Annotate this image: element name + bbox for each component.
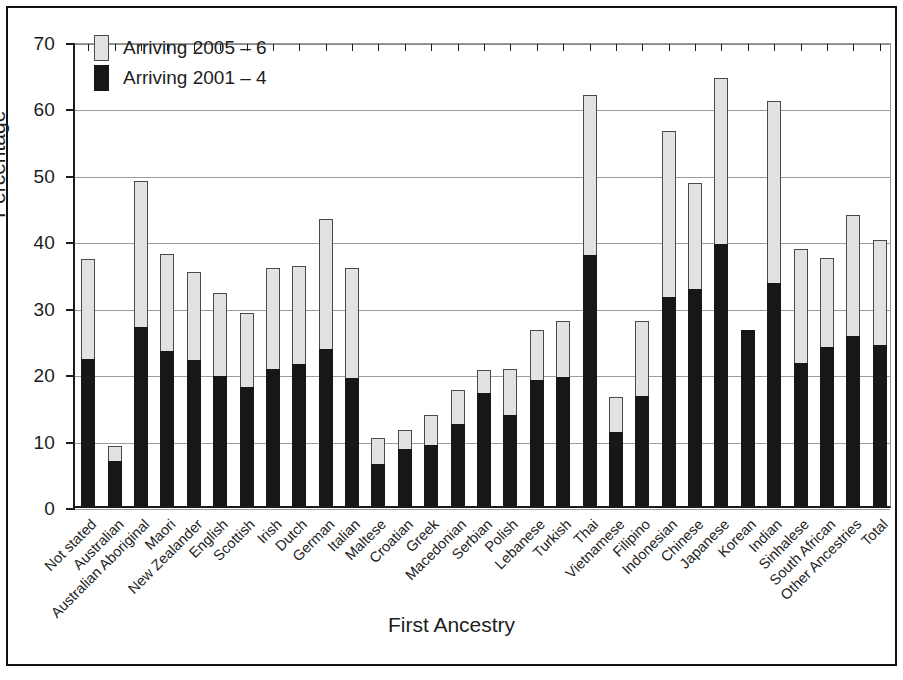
bar-segment-arriving-2001-4	[134, 327, 148, 506]
bar-segment-arriving-2001-4	[873, 345, 887, 506]
bar-group	[424, 41, 438, 506]
bar-segment-arriving-2005-6	[820, 258, 834, 348]
x-tick-mark	[378, 44, 379, 51]
bar-group	[292, 41, 306, 506]
bar-group	[609, 41, 623, 506]
bar-segment-arriving-2001-4	[451, 424, 465, 506]
bar-group	[741, 41, 755, 506]
bar-segment-arriving-2001-4	[530, 380, 544, 506]
bar-group	[794, 41, 808, 506]
bar-series-container	[75, 44, 890, 506]
legend-swatch-light-icon	[94, 35, 109, 61]
bar-segment-arriving-2005-6	[530, 330, 544, 380]
bar-segment-arriving-2005-6	[662, 131, 676, 296]
bar-segment-arriving-2005-6	[213, 293, 227, 376]
y-tick-label: 20	[7, 365, 55, 387]
bar-group	[345, 41, 359, 506]
bar-segment-arriving-2005-6	[688, 183, 702, 289]
bar-group	[319, 41, 333, 506]
bar-group	[160, 41, 174, 506]
legend-entry: Arriving 2001 – 4	[94, 63, 344, 93]
bar-segment-arriving-2001-4	[266, 369, 280, 507]
x-tick-mark	[827, 44, 828, 51]
x-tick-mark	[880, 44, 881, 51]
bar-segment-arriving-2005-6	[846, 215, 860, 336]
x-tick-mark	[405, 44, 406, 51]
bar-segment-arriving-2001-4	[714, 244, 728, 506]
bar-group	[583, 41, 597, 506]
y-axis-title: Percentage	[0, 111, 10, 218]
bar-segment-arriving-2001-4	[820, 347, 834, 506]
bar-segment-arriving-2005-6	[398, 430, 412, 449]
bar-group	[635, 41, 649, 506]
x-tick-mark	[774, 44, 775, 51]
legend-swatch-dark-icon	[94, 65, 109, 91]
bar-segment-arriving-2001-4	[424, 445, 438, 506]
bar-segment-arriving-2005-6	[345, 268, 359, 378]
y-tick-mark	[66, 43, 75, 45]
y-tick-mark	[66, 176, 75, 178]
bar-segment-arriving-2005-6	[160, 254, 174, 352]
bar-group	[81, 41, 95, 506]
x-tick-mark	[748, 44, 749, 51]
bar-group	[108, 41, 122, 506]
bar-segment-arriving-2005-6	[292, 266, 306, 364]
x-tick-mark	[431, 44, 432, 51]
y-tick-label: 40	[7, 232, 55, 254]
x-tick-mark	[88, 44, 89, 51]
y-tick-mark	[66, 109, 75, 111]
bar-segment-arriving-2001-4	[292, 364, 306, 506]
x-tick-mark	[458, 44, 459, 51]
bar-segment-arriving-2005-6	[477, 370, 491, 393]
bar-group	[477, 41, 491, 506]
bar-segment-arriving-2005-6	[583, 95, 597, 255]
x-tick-mark	[352, 44, 353, 51]
bar-segment-arriving-2001-4	[371, 464, 385, 506]
y-tick-label: 0	[7, 498, 55, 520]
bar-group	[767, 41, 781, 506]
bar-segment-arriving-2005-6	[556, 321, 570, 377]
bar-group	[213, 41, 227, 506]
bar-segment-arriving-2005-6	[503, 369, 517, 415]
bar-segment-arriving-2005-6	[794, 249, 808, 363]
bar-segment-arriving-2001-4	[662, 297, 676, 506]
bar-segment-arriving-2001-4	[345, 378, 359, 506]
x-tick-mark	[590, 44, 591, 51]
bar-group	[662, 41, 676, 506]
y-tick-mark	[66, 309, 75, 311]
x-tick-mark	[801, 44, 802, 51]
bar-segment-arriving-2005-6	[451, 390, 465, 424]
x-tick-mark	[669, 44, 670, 51]
x-tick-mark	[484, 44, 485, 51]
x-tick-label: Total	[858, 516, 891, 549]
bar-segment-arriving-2005-6	[609, 397, 623, 432]
bar-segment-arriving-2005-6	[134, 181, 148, 328]
bar-group	[873, 41, 887, 506]
bar-segment-arriving-2001-4	[556, 377, 570, 506]
bar-group	[134, 41, 148, 506]
bar-segment-arriving-2005-6	[767, 101, 781, 284]
bar-segment-arriving-2005-6	[635, 321, 649, 397]
bar-group	[714, 41, 728, 506]
bar-segment-arriving-2005-6	[240, 313, 254, 387]
bar-group	[530, 41, 544, 506]
bar-segment-arriving-2001-4	[213, 376, 227, 506]
bar-group	[556, 41, 570, 506]
legend-label: Arriving 2005 – 6	[123, 37, 267, 59]
bar-segment-arriving-2001-4	[477, 393, 491, 506]
bar-segment-arriving-2001-4	[81, 359, 95, 506]
bar-group	[398, 41, 412, 506]
x-tick-mark	[695, 44, 696, 51]
bar-segment-arriving-2005-6	[187, 272, 201, 360]
bar-segment-arriving-2001-4	[635, 396, 649, 506]
y-tick-mark	[66, 375, 75, 377]
bar-segment-arriving-2005-6	[108, 446, 122, 461]
legend-label: Arriving 2001 – 4	[123, 67, 267, 89]
bar-segment-arriving-2001-4	[846, 336, 860, 506]
x-axis-title: First Ancestry	[8, 613, 895, 637]
bar-group	[371, 41, 385, 506]
x-tick-mark	[616, 44, 617, 51]
bar-group	[688, 41, 702, 506]
gridline	[75, 509, 890, 510]
x-tick-mark	[642, 44, 643, 51]
